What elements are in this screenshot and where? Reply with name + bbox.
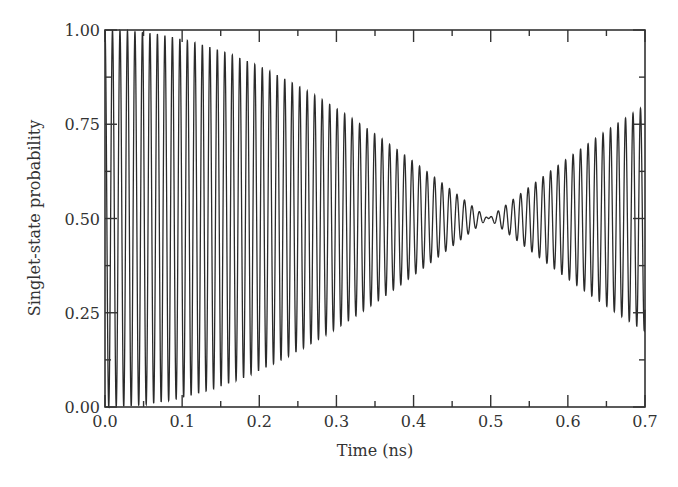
y-axis-label: Singlet-state probability [25, 120, 44, 317]
x-tick-label: 0.7 [632, 412, 657, 431]
x-tick-label: 0.3 [324, 412, 349, 431]
x-tick-labels: 0.00.10.20.30.40.50.60.7 [92, 412, 657, 431]
x-tick-label: 0.6 [555, 412, 580, 431]
y-tick-label: 0.50 [64, 210, 100, 229]
x-tick-label: 0.5 [478, 412, 503, 431]
chart: 0.00.10.20.30.40.50.60.7 0.000.250.500.7… [0, 0, 678, 487]
x-tick-label: 0.4 [401, 412, 426, 431]
y-tick-label: 0.00 [64, 398, 100, 417]
y-tick-label: 1.00 [64, 21, 100, 40]
y-tick-label: 0.75 [64, 115, 100, 134]
plot-area [105, 30, 645, 407]
probability-curve [105, 30, 645, 407]
x-tick-label: 0.1 [169, 412, 194, 431]
x-tick-label: 0.2 [247, 412, 272, 431]
y-tick-label: 0.25 [64, 304, 100, 323]
y-tick-labels: 0.000.250.500.751.00 [64, 21, 100, 417]
x-axis-label: Time (ns) [337, 441, 414, 460]
